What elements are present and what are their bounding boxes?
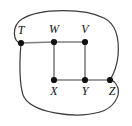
- graph-edge-t-w: [21, 42, 54, 43]
- straight-edges-group: [21, 42, 110, 80]
- vertices-group: [18, 39, 113, 83]
- graph-vertex-w: [51, 39, 57, 45]
- vertex-label-x: X: [49, 84, 58, 98]
- graph-vertex-y: [82, 77, 88, 83]
- graph-edge-t-z-bottom: [20, 43, 119, 115]
- graph-canvas: TWVXYZ: [0, 0, 132, 126]
- vertex-labels-group: TWVXYZ: [18, 22, 116, 98]
- curved-edges-group: [14, 11, 118, 115]
- vertex-label-v: V: [81, 22, 90, 36]
- graph-vertex-t: [18, 40, 24, 46]
- graph-edge-t-z-top: [14, 11, 118, 80]
- vertex-label-w: W: [49, 22, 60, 36]
- graph-vertex-z: [107, 77, 113, 83]
- vertex-label-y: Y: [82, 84, 90, 98]
- graph-figure: TWVXYZ: [0, 0, 132, 126]
- graph-vertex-x: [51, 77, 57, 83]
- vertex-label-t: T: [18, 23, 26, 37]
- graph-vertex-v: [82, 39, 88, 45]
- vertex-label-z: Z: [109, 84, 116, 98]
